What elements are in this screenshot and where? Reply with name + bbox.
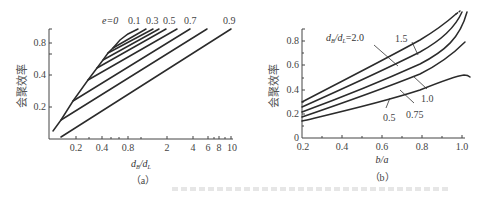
chart-a-xtick-label: 10 — [227, 142, 237, 153]
chart-b-xtick-label: 0.2 — [297, 141, 310, 152]
chart-a-xtick-label: 0.4 — [96, 142, 109, 153]
curve-label: 1.0 — [421, 93, 434, 104]
curve-label: 1.5 — [395, 33, 408, 44]
chart-a-xtick-label: 2 — [165, 142, 170, 153]
chart-b-ytick-label: 0.2 — [287, 108, 300, 119]
chart-a-xtick-label: 4 — [191, 142, 196, 153]
chart-a-caption: （a） — [131, 175, 155, 186]
curve-e-0.4 — [97, 29, 166, 68]
chart-a-ytick-label: 0.2 — [34, 101, 47, 112]
chart-b-curves — [302, 11, 470, 121]
faded-caption-text — [172, 187, 448, 191]
curve-label-e0: e=0 — [102, 15, 118, 26]
chart-b-ytick-label: 0.4 — [287, 84, 300, 95]
chart-b-caption: （b） — [370, 172, 395, 183]
chart-a-ytick-label: 0.4 — [34, 69, 47, 80]
chart-a-curve-labels: e=0 0.1 0.3 0.5 0.7 0.9 — [102, 15, 236, 26]
chart-b-xtick-label: 1.0 — [456, 141, 469, 152]
chart-a-y-label: 会聚效率 — [15, 64, 29, 108]
chart-b-y-label: 会聚效率 — [267, 64, 281, 108]
chart-a-ytick-label: 0.8 — [34, 37, 47, 48]
figure-canvas: 0.8 0.4 0.2 0.2 0.4 0.8 2 4 6 8 — [0, 0, 484, 197]
curve-label: 0.7 — [184, 15, 197, 26]
chart-b-curve-labels: dB/dL=2.0 1.5 1.0 0.75 0.5 — [326, 32, 434, 123]
curve-label: 0.1 — [128, 15, 141, 26]
chart-a: 0.8 0.4 0.2 0.2 0.4 0.8 2 4 6 8 — [15, 15, 237, 186]
curve-ratio-2.0 — [302, 14, 456, 102]
curve-ratio-1.5 — [302, 12, 462, 107]
chart-a-xtick-label: 0.8 — [122, 142, 135, 153]
curve-label-ratio: dB/dL=2.0 — [326, 32, 364, 44]
chart-a-curves — [53, 29, 231, 137]
chart-a-xtick-label: 6 — [206, 142, 211, 153]
chart-b-xtick-label: 0.4 — [336, 141, 349, 152]
chart-b-xtick-label: 0.6 — [376, 141, 389, 152]
curve-ratio-2.0-dash — [456, 11, 460, 14]
chart-b-ytick-label: 0.6 — [287, 59, 300, 70]
chart-b-x-label: b/a — [376, 154, 389, 165]
curve-label: 0.3 — [146, 15, 159, 26]
chart-a-xtick-label: 8 — [217, 142, 222, 153]
svg-text:dB/dL: dB/dL — [131, 158, 151, 170]
chart-b-xtick-label: 0.8 — [416, 141, 429, 152]
curve-ratio-1.0 — [302, 12, 467, 112]
curve-label: 0.5 — [163, 15, 176, 26]
chart-a-x-label: dB/dL — [131, 158, 151, 170]
curve-label: 0.5 — [383, 112, 396, 123]
chart-b: 0.8 0.6 0.4 0.2 0 0.2 0.4 0.6 0.8 1.0 — [267, 11, 470, 183]
chart-b-ytick-label: 0.8 — [287, 35, 300, 46]
chart-a-xtick-label: 0.2 — [70, 142, 83, 153]
curve-label: 0.9 — [223, 15, 236, 26]
curve-label: 0.75 — [406, 109, 424, 120]
